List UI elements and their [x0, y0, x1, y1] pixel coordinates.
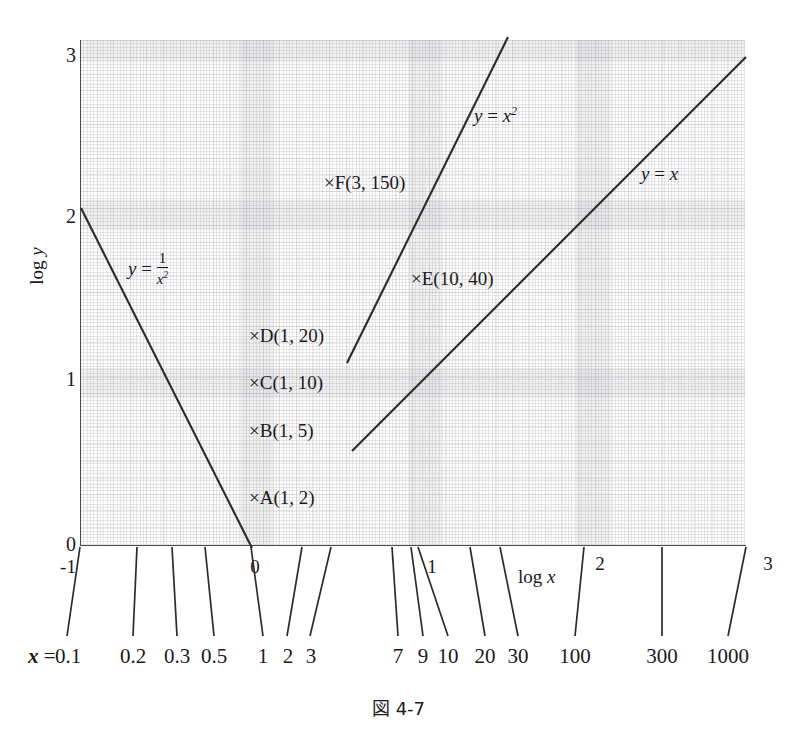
x-scale-value-1: 0.2 [110, 644, 156, 669]
x-tick-minus-1: -1 [53, 556, 83, 578]
curve-inv-sq-numerator: 1 [157, 251, 169, 267]
curve-label-inverse-square: y = 1x2 [128, 252, 168, 289]
curve-inv-sq-denominator: x2 [157, 267, 169, 288]
curve-inv-sq-fraction: 1x2 [157, 251, 169, 288]
point-label-E: ×E(10, 40) [411, 268, 493, 290]
curve-lin-rhs: x [670, 163, 678, 184]
curve-sq-exp: 2 [511, 104, 517, 118]
figure-caption: 図 4-7 [0, 694, 797, 720]
curve-sq-rhs: x [503, 105, 511, 126]
y-tick-1: 1 [50, 368, 76, 391]
point-label-D: ×D(1, 20) [249, 325, 324, 347]
x-tick-2: 2 [585, 553, 615, 575]
y-tick-3: 3 [50, 44, 76, 67]
y-tick-0: 0 [50, 533, 76, 556]
point-label-F: ×F(3, 150) [324, 172, 405, 194]
x-tick-0: 0 [240, 556, 270, 578]
x-scale-value-14: 1000 [692, 644, 764, 669]
point-label-A: ×A(1, 2) [249, 487, 315, 509]
x-tick-1: 1 [417, 556, 447, 578]
curve-lin-eq: = [649, 163, 669, 184]
x-scale-value-7: 7 [385, 644, 411, 669]
x-scale-value-4: 1 [250, 644, 276, 669]
x-axis-title: log x [518, 566, 555, 588]
x-scale-value-6: 3 [298, 644, 324, 669]
x-scale-value-12: 100 [547, 644, 603, 669]
y-axis-title-log: log [26, 256, 47, 285]
x-tick-3: 3 [753, 553, 783, 575]
x-axis-title-var: x [547, 566, 555, 587]
x-scale-value-3: 0.5 [191, 644, 237, 669]
curve-sq-eq: = [482, 105, 502, 126]
x-scale-value-0: 0.1 [45, 644, 91, 669]
x-scale-value-13: 300 [634, 644, 690, 669]
curve-label-x-linear: y = x [641, 163, 678, 185]
curve-label-x-squared: y = x2 [474, 104, 517, 127]
x-scale-value-9: 10 [429, 644, 467, 669]
y-axis-title: log y [26, 221, 48, 311]
x-scale-prefix-var: x [28, 644, 39, 668]
curve-inv-sq-den-exp: 2 [163, 269, 168, 280]
curve-x-squared [347, 37, 508, 363]
plot-vector-layer [0, 0, 797, 745]
curve-inv-sq-eq: = [136, 258, 156, 279]
figure-log-log-plot: 3 2 1 0 log y -1 0 1 2 3 log x y = 1x2 y… [0, 0, 797, 745]
curve-x-linear [352, 57, 746, 451]
point-label-C: ×C(1, 10) [249, 372, 323, 394]
x-axis-title-log: log [518, 566, 547, 587]
x-scale-leader-lines [67, 547, 746, 636]
y-tick-2: 2 [50, 205, 76, 228]
x-scale-value-11: 30 [499, 644, 537, 669]
point-label-B: ×B(1, 5) [249, 420, 314, 442]
y-axis-title-var: y [26, 247, 47, 255]
